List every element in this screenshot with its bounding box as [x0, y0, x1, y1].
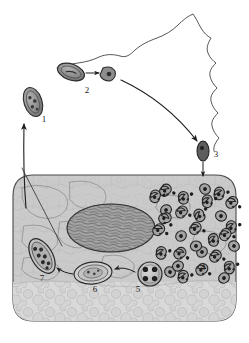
label-2-attachment-entry: 2 — [85, 85, 90, 95]
label-3-endocytosis: 3 — [214, 149, 219, 159]
label-4-reticulate-bodies-dividing: 4 — [201, 262, 206, 272]
attached-body-stage-2 — [100, 67, 115, 81]
basal-vacuole-zone — [10, 282, 240, 324]
label-6-maturing-inclusion: 6 — [93, 284, 98, 294]
elementary-body-stage-2 — [55, 60, 87, 85]
label-7-mature-inclusion: 7 — [40, 273, 45, 283]
inclusion-stage-5 — [138, 262, 162, 286]
internalised-body-stage-3 — [197, 141, 209, 161]
mucosal-surface-outline — [57, 14, 219, 151]
label-5-inclusion-with-particles: 5 — [136, 284, 141, 294]
arrow-attachment-to-3 — [121, 80, 197, 141]
nucleus — [67, 204, 155, 252]
label-1-elementary-body-released: 1 — [42, 114, 47, 124]
chlamydia-cycle-diagram: 1234567 — [0, 0, 249, 343]
figure-root: 1234567 — [0, 0, 249, 343]
